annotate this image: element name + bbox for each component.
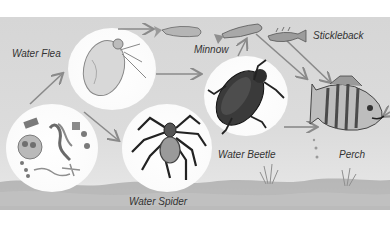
perch-icon [310, 76, 384, 130]
stickleback-icon [268, 27, 306, 42]
label-water-beetle: Water Beetle [218, 149, 276, 160]
arrow-plankton-to-water-flea [30, 74, 62, 104]
water-flea-icon [77, 36, 146, 100]
arrow-offscreen-to-perch [384, 112, 390, 116]
label-perch: Perch [339, 149, 365, 160]
arrow-water-beetle-to-minnow [238, 40, 246, 56]
arrow-plankton-to-water-spider [84, 112, 118, 140]
label-water-flea: Water Flea [12, 48, 61, 59]
label-water-spider: Water Spider [129, 196, 187, 207]
plankton-icon [18, 117, 90, 178]
water-beetle-icon [206, 60, 284, 134]
arrow-stickleback-to-perch [286, 40, 330, 82]
water-spider-icon [132, 116, 206, 180]
label-minnow: Minnow [194, 44, 228, 55]
label-stickleback: Stickleback [313, 30, 364, 41]
